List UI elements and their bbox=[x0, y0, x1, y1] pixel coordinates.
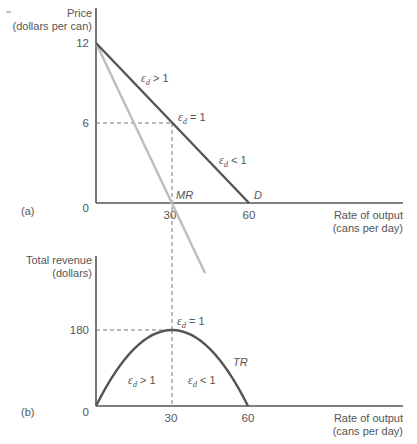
x-axis-label-b-units: (cans per day) bbox=[333, 425, 403, 437]
panel-b: Total revenue (dollars) 180 0 30 60 εd =… bbox=[21, 254, 403, 437]
label-elastic-a: εd > 1 bbox=[141, 71, 169, 87]
label-unit-elastic-a: εd = 1 bbox=[178, 110, 206, 126]
label-inelastic-b: εd < 1 bbox=[188, 373, 216, 389]
label-unit-elastic-b: εd = 1 bbox=[177, 314, 205, 330]
x-axis-label-b: Rate of output bbox=[334, 412, 403, 424]
y-axis-label-revenue-units: (dollars) bbox=[52, 267, 92, 279]
elasticity-chart: Price (dollars per can) 12 6 0 30 60 εd … bbox=[0, 0, 417, 444]
x-tick-30-b: 30 bbox=[165, 412, 178, 424]
y-tick-0: 0 bbox=[83, 202, 89, 214]
x-axis-label-a: Rate of output bbox=[334, 209, 403, 221]
y-axis-label-revenue: Total revenue bbox=[26, 254, 92, 266]
panel-a: Price (dollars per can) 12 6 0 30 60 εd … bbox=[13, 7, 403, 330]
x-tick-60-b: 60 bbox=[242, 412, 255, 424]
label-mr: MR bbox=[176, 189, 193, 201]
y-tick-180: 180 bbox=[70, 324, 89, 336]
y-axis-label-price: Price bbox=[67, 7, 92, 19]
x-axis-label-a-units: (cans per day) bbox=[333, 222, 403, 234]
label-elastic-b: εd > 1 bbox=[128, 373, 156, 389]
label-d: D bbox=[254, 189, 262, 201]
y-tick-6: 6 bbox=[83, 117, 89, 129]
label-tr: TR bbox=[233, 356, 248, 368]
label-inelastic-a: εd < 1 bbox=[219, 153, 247, 169]
y-tick-0-b: 0 bbox=[83, 406, 89, 418]
y-tick-12: 12 bbox=[76, 37, 89, 49]
panel-label-a: (a) bbox=[21, 205, 34, 217]
y-axis-label-price-units: (dollars per can) bbox=[13, 20, 92, 32]
panel-label-b: (b) bbox=[21, 406, 34, 418]
x-tick-60: 60 bbox=[243, 209, 256, 221]
